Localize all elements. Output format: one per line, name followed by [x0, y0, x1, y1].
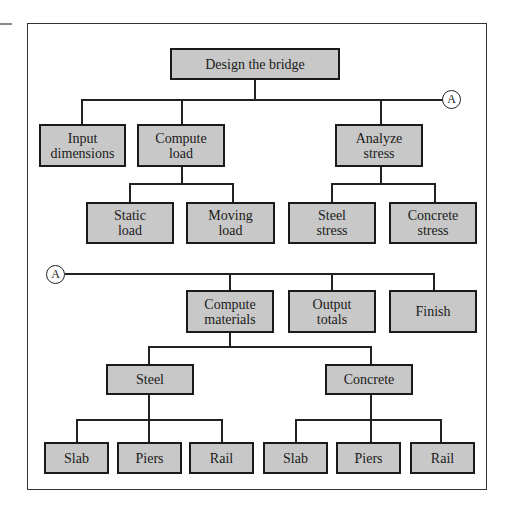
- connector-line: [76, 419, 78, 442]
- off-page-connector-a-top: A: [442, 90, 461, 109]
- connector-line: [181, 167, 183, 184]
- connector-line: [229, 273, 231, 290]
- node-compute-materials: Compute materials: [186, 290, 274, 333]
- node-concrete-rail: Rail: [410, 442, 475, 474]
- connector-line: [181, 99, 183, 124]
- node-finish: Finish: [389, 290, 477, 333]
- node-design-the-bridge: Design the bridge: [170, 48, 340, 80]
- connector-line: [148, 395, 150, 420]
- node-concrete-stress: Concrete stress: [389, 202, 477, 244]
- connector-line: [129, 183, 131, 202]
- node-static-load: Static load: [86, 202, 174, 244]
- connector-line: [81, 99, 443, 101]
- connector-line: [440, 419, 442, 442]
- node-concrete-slab: Slab: [263, 442, 328, 474]
- connector-line: [380, 99, 382, 124]
- connector-line: [434, 183, 436, 202]
- node-input-dimensions: Input dimensions: [39, 124, 126, 167]
- connector-line: [370, 395, 372, 420]
- connector-line: [65, 273, 433, 275]
- connector-line: [254, 80, 256, 100]
- connector-line: [433, 273, 435, 290]
- connector-line: [129, 183, 232, 185]
- connector-line: [81, 99, 83, 124]
- node-steel-piers: Piers: [117, 442, 182, 474]
- node-output-totals: Output totals: [288, 290, 376, 333]
- margin-tick: [0, 23, 12, 25]
- connector-line: [370, 419, 372, 442]
- connector-line: [229, 333, 231, 347]
- node-steel-slab: Slab: [44, 442, 109, 474]
- off-page-connector-a-bottom: A: [46, 265, 65, 284]
- connector-line: [221, 419, 223, 442]
- connector-line: [380, 167, 382, 184]
- node-moving-load: Moving load: [186, 202, 275, 244]
- connector-line: [295, 419, 297, 442]
- node-steel-stress: Steel stress: [288, 202, 376, 244]
- connector-line: [148, 346, 150, 364]
- connector-line: [232, 183, 234, 202]
- node-steel-rail: Rail: [189, 442, 254, 474]
- node-concrete: Concrete: [325, 364, 413, 395]
- connector-line: [148, 419, 150, 442]
- node-steel: Steel: [106, 364, 194, 395]
- connector-line: [370, 346, 372, 364]
- node-compute-load: Compute load: [137, 124, 225, 167]
- connector-line: [148, 346, 370, 348]
- connector-line: [331, 273, 333, 290]
- connector-line: [331, 183, 333, 202]
- connector-line: [331, 183, 434, 185]
- node-analyze-stress: Analyze stress: [335, 124, 423, 167]
- node-concrete-piers: Piers: [336, 442, 401, 474]
- connector-line: [295, 419, 441, 421]
